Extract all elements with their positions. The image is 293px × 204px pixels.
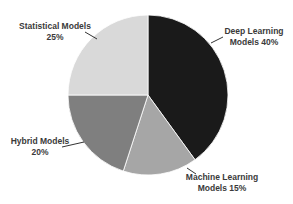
label-machine-learning-line2: Models 15% (186, 183, 258, 194)
label-statistical-line2: 25% (19, 32, 91, 43)
label-hybrid: Hybrid Models 20% (11, 136, 70, 158)
label-deep-learning-line2: Models 40% (224, 37, 283, 48)
label-machine-learning-line1: Machine Learning (186, 172, 258, 183)
label-statistical: Statistical Models 25% (19, 21, 91, 43)
label-hybrid-line1: Hybrid Models (11, 136, 70, 147)
pie-slices (68, 15, 228, 175)
label-statistical-line1: Statistical Models (19, 21, 91, 32)
label-machine-learning: Machine Learning Models 15% (186, 172, 258, 194)
label-deep-learning-line1: Deep Learning (224, 26, 283, 37)
label-hybrid-line2: 20% (11, 147, 70, 158)
label-deep-learning: Deep Learning Models 40% (224, 26, 283, 48)
leader-deep-learning (211, 37, 223, 43)
